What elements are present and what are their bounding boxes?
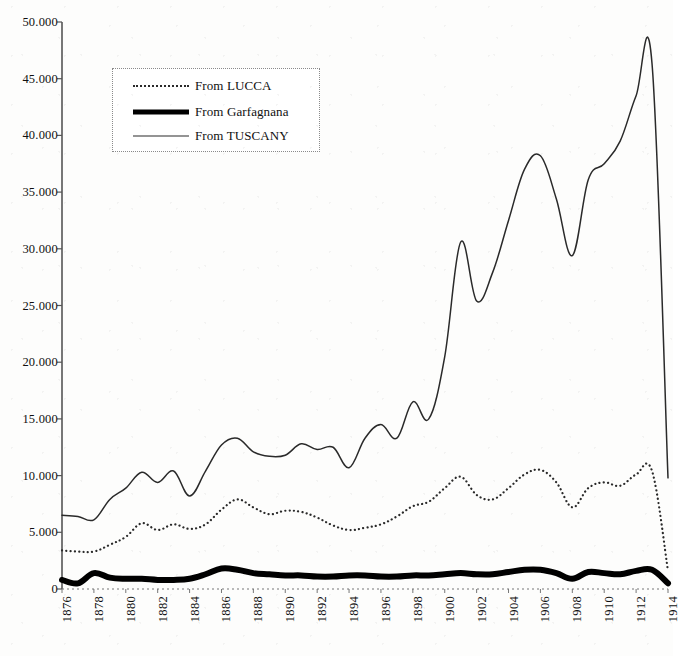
x-tick-label: 1882 [155,596,170,622]
x-tick-label: 1892 [315,596,330,622]
x-tick-label: 1898 [410,596,425,622]
dotted-line-swatch [133,80,189,92]
legend-label-garfagnana: From Garfagnana [195,104,289,120]
x-tick-label: 1896 [378,596,393,622]
x-tick-label: 1902 [474,596,489,622]
x-tick-label: 1876 [60,596,75,622]
x-tick-label: 1886 [219,596,234,622]
x-tick-label: 1890 [283,596,298,622]
x-tick-label: 1894 [347,596,362,622]
x-tick-label: 1908 [570,596,585,622]
thin-line-swatch [133,130,189,142]
x-tick-label: 1884 [187,596,202,622]
thick-line-swatch [133,106,189,118]
x-tick-label: 1900 [442,596,457,622]
x-tick-label: 1888 [251,596,266,622]
legend-label-lucca: From LUCCA [195,78,271,94]
legend-item-lucca: From LUCCA [113,73,319,99]
x-tick-label: 1880 [123,596,138,622]
legend-item-tuscany: From TUSCANY [113,123,319,149]
legend-label-tuscany: From TUSCANY [195,128,289,144]
x-tick-label: 1904 [506,596,521,622]
legend-item-garfagnana: From Garfagnana [113,99,319,125]
x-tick-label: 1912 [634,596,649,622]
x-tick-label: 1906 [538,596,553,622]
chart-legend: From LUCCA From Garfagnana From TUSCANY [112,68,320,152]
x-tick-label: 1878 [91,596,106,622]
x-tick-label: 1914 [666,596,681,622]
x-tick-label: 1910 [602,596,617,622]
